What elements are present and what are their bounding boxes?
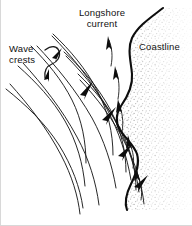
- wave-refraction-figure: Longshore current Coastline Wave crests: [0, 0, 192, 226]
- land-stipple-region: [117, 8, 192, 210]
- label-longshore-current: Longshore current: [74, 7, 130, 29]
- label-wave-line2: crests: [9, 54, 55, 65]
- label-wave-line1: Wave: [9, 43, 55, 54]
- diagram-canvas: [0, 0, 192, 226]
- label-coastline: Coastline: [139, 41, 180, 52]
- label-longshore-line1: Longshore: [74, 7, 130, 18]
- label-longshore-line2: current: [74, 18, 130, 29]
- label-wave-crests: Wave crests: [9, 43, 55, 65]
